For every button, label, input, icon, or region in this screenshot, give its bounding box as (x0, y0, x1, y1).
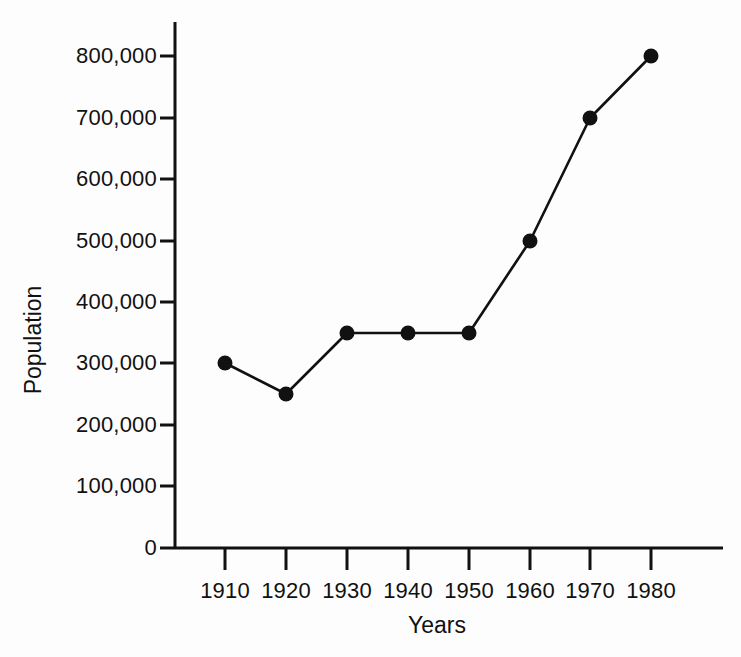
y-tick-label-800000: 800,000 (5, 43, 157, 69)
x-tick-label-1980: 1980 (626, 578, 676, 604)
data-point (340, 326, 355, 341)
data-point (279, 387, 294, 402)
population-series-markers (218, 49, 659, 402)
data-point (523, 234, 538, 249)
x-tick-label-1960: 1960 (505, 578, 555, 604)
y-tick-label-0: 0 (5, 535, 157, 561)
x-tick-label-1950: 1950 (444, 578, 494, 604)
y-tick-label-600000: 600,000 (5, 166, 157, 192)
y-tick-label-100000: 100,000 (5, 473, 157, 499)
y-axis-ticks (160, 56, 175, 548)
data-point (644, 49, 659, 64)
y-axis-title: Population (20, 286, 47, 395)
y-tick-label-200000: 200,000 (5, 412, 157, 438)
data-point (401, 326, 416, 341)
x-tick-label-1930: 1930 (322, 578, 372, 604)
y-tick-label-500000: 500,000 (5, 228, 157, 254)
x-tick-label-1920: 1920 (261, 578, 311, 604)
data-point (462, 326, 477, 341)
x-tick-label-1970: 1970 (565, 578, 615, 604)
population-line-chart: 800,000 700,000 600,000 500,000 400,000 … (0, 0, 741, 657)
population-series-line (225, 56, 651, 394)
y-tick-label-700000: 700,000 (5, 105, 157, 131)
x-tick-label-1910: 1910 (200, 578, 250, 604)
x-axis-title: Years (408, 612, 466, 639)
x-axis-ticks (225, 548, 651, 570)
x-tick-label-1940: 1940 (383, 578, 433, 604)
data-point (218, 356, 233, 371)
data-point (583, 111, 598, 126)
